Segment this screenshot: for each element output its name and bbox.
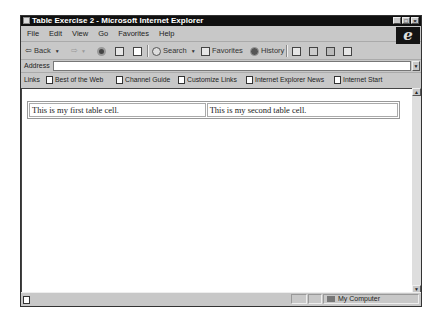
link-internet-start[interactable]: Internet Start xyxy=(334,73,382,87)
menu-favorites[interactable]: Favorites xyxy=(118,29,149,38)
chevron-down-icon: ▼ xyxy=(81,43,86,59)
page-content: This is my first table cell. This is my … xyxy=(21,88,412,293)
chevron-down-icon: ▼ xyxy=(55,43,60,59)
scroll-up-button[interactable]: ▲ xyxy=(412,88,421,96)
address-bar: Address ▼ xyxy=(21,60,421,73)
home-icon xyxy=(133,47,142,56)
computer-icon xyxy=(327,296,335,302)
edit-icon xyxy=(343,47,352,56)
mail-button[interactable] xyxy=(309,43,320,59)
status-pane xyxy=(308,294,322,304)
ie-page-icon xyxy=(23,17,30,24)
back-arrow-icon: ⇦ xyxy=(25,43,32,59)
menu-file[interactable]: File xyxy=(27,29,39,38)
page-status-icon xyxy=(23,296,30,304)
stop-icon xyxy=(97,47,106,56)
menu-view[interactable]: View xyxy=(72,29,88,38)
page-icon xyxy=(46,76,53,84)
refresh-button[interactable] xyxy=(115,43,126,59)
page-icon xyxy=(178,76,185,84)
home-button[interactable] xyxy=(133,43,144,59)
vertical-scrollbar[interactable]: ▲ ▼ xyxy=(412,88,421,293)
links-label: Links xyxy=(24,73,40,87)
maximize-button[interactable]: □ xyxy=(402,17,410,24)
address-dropdown-button[interactable]: ▼ xyxy=(412,61,420,71)
mail-icon xyxy=(309,47,318,56)
stop-button[interactable] xyxy=(97,43,108,59)
browser-window: Table Exercise 2 - Microsoft Internet Ex… xyxy=(20,15,422,307)
status-pane xyxy=(291,294,307,304)
search-button[interactable]: Search ▼ xyxy=(152,43,196,59)
refresh-icon xyxy=(115,47,124,56)
address-input[interactable] xyxy=(53,61,411,71)
favorites-button[interactable]: Favorites xyxy=(201,43,243,59)
menu-go[interactable]: Go xyxy=(98,29,108,38)
channels-button[interactable] xyxy=(292,43,303,59)
menu-edit[interactable]: Edit xyxy=(49,29,62,38)
page-icon xyxy=(334,76,341,84)
page-icon xyxy=(116,76,123,84)
toolbar-divider xyxy=(147,45,149,57)
link-internet-explorer-news[interactable]: Internet Explorer News xyxy=(246,73,324,87)
page-icon xyxy=(246,76,253,84)
status-bar: My Computer xyxy=(21,292,421,306)
title-bar[interactable]: Table Exercise 2 - Microsoft Internet Ex… xyxy=(21,16,421,26)
print-button[interactable] xyxy=(326,43,337,59)
link-channel-guide[interactable]: Channel Guide xyxy=(116,73,170,87)
window-title: Table Exercise 2 - Microsoft Internet Ex… xyxy=(32,16,203,26)
content-table: This is my first table cell. This is my … xyxy=(27,101,400,119)
channels-icon xyxy=(292,47,301,56)
history-button[interactable]: History xyxy=(250,43,284,59)
toolbar-divider xyxy=(286,45,288,57)
links-bar: Links Best of the Web Channel Guide Cust… xyxy=(21,73,421,87)
search-icon xyxy=(152,47,161,56)
table-cell: This is my second table cell. xyxy=(207,103,398,117)
table-row: This is my first table cell. This is my … xyxy=(29,103,398,117)
address-label: Address xyxy=(24,60,50,72)
ie-logo-icon: e xyxy=(396,27,420,44)
history-icon xyxy=(250,47,259,56)
chevron-down-icon: ▼ xyxy=(191,43,196,59)
table-cell: This is my first table cell. xyxy=(29,103,206,117)
standard-toolbar: ⇦ Back ▼ ⇨ ▼ Search ▼ Favorites History xyxy=(21,43,421,60)
minimize-button[interactable]: _ xyxy=(393,17,401,24)
menu-help[interactable]: Help xyxy=(159,29,174,38)
link-best-of-the-web[interactable]: Best of the Web xyxy=(46,73,103,87)
back-button[interactable]: ⇦ Back ▼ xyxy=(25,43,60,59)
edit-button[interactable] xyxy=(343,43,354,59)
close-button[interactable]: × xyxy=(411,17,419,24)
forward-button[interactable]: ⇨ ▼ xyxy=(71,43,86,59)
forward-arrow-icon: ⇨ xyxy=(71,43,78,59)
print-icon xyxy=(326,47,335,56)
menu-bar: FileEditViewGoFavoritesHelp xyxy=(21,27,421,42)
security-zone: My Computer xyxy=(323,294,419,304)
favorites-icon xyxy=(201,47,210,56)
link-customize-links[interactable]: Customize Links xyxy=(178,73,237,87)
